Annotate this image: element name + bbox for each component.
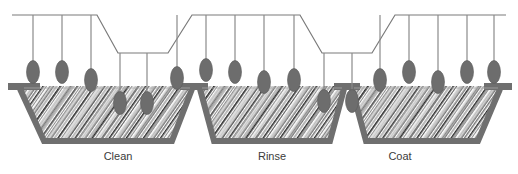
hanger-12 <box>346 53 359 113</box>
hanger-3 <box>85 15 98 92</box>
rim-far-right <box>484 83 512 90</box>
diagram-canvas: Clean Rinse Coat <box>0 0 518 174</box>
hanger-2 <box>56 15 69 84</box>
tank-liquid-group <box>18 84 504 144</box>
hanger-6 <box>171 15 184 90</box>
hanging-part <box>114 92 127 115</box>
hanger-16 <box>461 15 474 84</box>
tank-clean-liquid <box>18 84 196 144</box>
hanging-part <box>229 61 242 84</box>
rim-divider-1 <box>180 83 208 90</box>
hanging-part <box>432 71 445 94</box>
hanger-4 <box>114 53 127 115</box>
tank-label-clean: Clean <box>104 150 133 162</box>
hanger-7 <box>200 15 213 82</box>
tank-label-rinse: Rinse <box>258 150 286 162</box>
tank-label-coat: Coat <box>388 150 411 162</box>
hanging-part <box>288 69 301 92</box>
rim-divider-2 <box>334 83 360 90</box>
hanger-1 <box>27 15 40 84</box>
hanger-10 <box>288 15 301 92</box>
hanging-part <box>346 90 359 113</box>
tank-label-group: Clean Rinse Coat <box>104 150 412 162</box>
hanging-part <box>171 67 184 90</box>
hanging-part <box>85 69 98 92</box>
hanger-5 <box>141 53 154 115</box>
hanger-8 <box>229 15 242 84</box>
hanging-part <box>461 61 474 84</box>
hanging-part <box>141 92 154 115</box>
hanger-11 <box>318 53 331 113</box>
hanging-part <box>258 71 271 94</box>
hanging-part <box>27 61 40 84</box>
rim-clean-left <box>20 83 40 90</box>
hanging-part <box>200 59 213 82</box>
hanger-13 <box>374 15 387 92</box>
hanging-part <box>318 90 331 113</box>
conveyor-dip-diagram: Clean Rinse Coat <box>0 0 518 174</box>
hanger-17 <box>488 15 501 84</box>
hanging-part <box>488 61 501 84</box>
hanging-part <box>374 69 387 92</box>
hanger-9 <box>258 15 271 94</box>
hanger-15 <box>432 15 445 94</box>
conveyor-rail <box>12 15 506 53</box>
hanging-part <box>403 61 416 84</box>
hanger-14 <box>403 15 416 84</box>
hanging-part <box>56 61 69 84</box>
